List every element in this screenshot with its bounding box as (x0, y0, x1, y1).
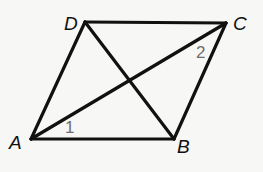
vertex-label-c: C (233, 13, 247, 34)
vertex-label-d: D (64, 13, 78, 34)
angle-label-2: 2 (196, 43, 205, 62)
vertex-label-a: A (8, 132, 22, 153)
angle-label-1: 1 (65, 118, 74, 137)
side-cd (85, 22, 226, 23)
side-bc (174, 23, 226, 139)
diagonal-bd (85, 22, 174, 139)
parallelogram-diagram: A B C D 1 2 (0, 0, 263, 172)
vertex-label-b: B (177, 136, 190, 157)
